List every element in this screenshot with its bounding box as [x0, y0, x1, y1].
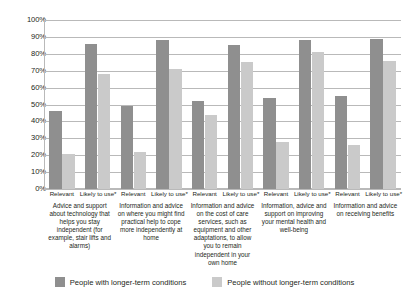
legend-label: People with longer-term conditions — [70, 278, 187, 287]
bar — [49, 111, 61, 189]
bar — [370, 39, 382, 189]
bar-group — [330, 20, 401, 189]
sub-category-label: Relevant — [330, 190, 366, 197]
bar — [276, 142, 288, 189]
category-caption: Information, advice and support on impro… — [260, 202, 327, 234]
bar — [383, 61, 395, 189]
legend-swatch — [212, 277, 222, 287]
category-label-group: RelevantLikely to use*Information and ad… — [330, 190, 401, 201]
bar — [263, 98, 275, 189]
bar-group — [258, 20, 329, 189]
bar-group — [115, 20, 186, 189]
category-label-group: RelevantLikely to use*Information and ad… — [187, 190, 258, 201]
sub-category-label: Relevant — [258, 190, 294, 197]
sub-category-label: Likely to use* — [222, 190, 258, 197]
sub-category-labels: RelevantLikely to use* — [187, 190, 258, 201]
bars-layer — [44, 20, 401, 189]
bar — [156, 40, 168, 189]
category-label-group: RelevantLikely to use*Information and ad… — [115, 190, 186, 201]
bar — [228, 45, 240, 189]
bar-group — [44, 20, 115, 189]
sub-category-label: Relevant — [44, 190, 80, 197]
bar — [85, 44, 97, 189]
category-caption: Information and advice on where you migh… — [117, 202, 184, 242]
sub-category-label: Relevant — [187, 190, 223, 197]
bar — [348, 145, 360, 189]
legend-swatch — [55, 277, 65, 287]
bar — [241, 62, 253, 189]
sub-category-labels: RelevantLikely to use* — [258, 190, 329, 201]
category-caption: Information and advice on the cost of ca… — [189, 202, 256, 267]
category-caption: Advice and support about technology that… — [46, 202, 113, 251]
bar-group — [187, 20, 258, 189]
sub-category-labels: RelevantLikely to use* — [44, 190, 115, 201]
legend-item[interactable]: People with longer-term conditions — [55, 277, 187, 287]
bar-chart: 0%10%20%30%40%50%60%70%80%90%100% Releva… — [0, 0, 409, 296]
bar — [192, 101, 204, 189]
category-label-group: RelevantLikely to use*Advice and support… — [44, 190, 115, 201]
bar — [312, 52, 324, 189]
sub-category-label: Relevant — [115, 190, 151, 197]
sub-category-label: Likely to use* — [151, 190, 187, 197]
sub-category-label: Likely to use* — [365, 190, 401, 197]
bar — [134, 152, 146, 189]
chart-legend: People with longer-term conditionsPeople… — [0, 277, 409, 287]
bar — [335, 96, 347, 189]
bar — [62, 154, 74, 189]
bar — [98, 74, 110, 189]
bar — [121, 106, 133, 189]
bar — [169, 69, 181, 189]
sub-category-label: Likely to use* — [80, 190, 116, 197]
bar — [205, 115, 217, 189]
legend-label: People without longer-term conditions — [227, 278, 354, 287]
sub-category-label: Likely to use* — [294, 190, 330, 197]
category-label-group: RelevantLikely to use*Information, advic… — [258, 190, 329, 201]
plot-area — [44, 20, 401, 189]
sub-category-labels: RelevantLikely to use* — [330, 190, 401, 201]
sub-category-labels: RelevantLikely to use* — [115, 190, 186, 201]
bar — [299, 40, 311, 189]
category-caption: Information and advice on receiving bene… — [332, 202, 399, 218]
legend-item[interactable]: People without longer-term conditions — [212, 277, 354, 287]
